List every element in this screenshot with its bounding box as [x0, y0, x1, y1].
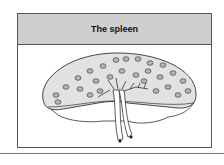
figure-header: The spleen — [18, 14, 211, 45]
vessel-end-b — [129, 135, 132, 138]
spleen-illustration — [18, 45, 213, 148]
page-divider — [0, 153, 224, 154]
figure-title: The spleen — [91, 24, 138, 34]
figure-frame: The spleen — [17, 13, 212, 148]
vessel-end-a — [118, 139, 121, 142]
